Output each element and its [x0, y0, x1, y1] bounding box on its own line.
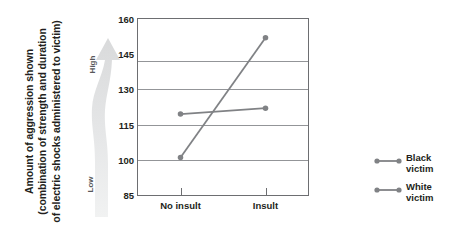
data-series-layer — [138, 19, 308, 195]
x-tick-label-no-insult: No insult — [160, 200, 201, 211]
legend-label-black-victim-line-1: Black — [406, 152, 431, 163]
y-tick-label-85: 85 — [123, 190, 134, 201]
y-axis-label-line-3: of electric shocks administered to victi… — [50, 20, 64, 222]
legend-item-white-victim[interactable]: White victim — [374, 181, 454, 203]
y-axis-label-line-2: (combination of strength and duration — [36, 20, 50, 222]
legend-label-black-victim-line-2: victim — [406, 163, 433, 174]
legend-marker-white-victim — [374, 182, 402, 194]
y-tick-label-130: 130 — [118, 84, 134, 95]
data-point — [178, 111, 184, 117]
y-axis-label: Amount of aggression shown (combination … — [0, 0, 86, 243]
chart-plot-area: 160 145 130 115 100 85 No insult Insult — [137, 18, 309, 196]
series-line-black-victim — [181, 108, 266, 114]
data-point — [178, 155, 184, 161]
scale-arrow-high-label: High — [88, 56, 97, 74]
chart-legend: Black victim White victim — [374, 152, 454, 210]
legend-label-white-victim-line-1: White — [406, 181, 432, 192]
data-point — [263, 35, 269, 41]
y-tick-label-160: 160 — [118, 14, 134, 25]
y-tick-label-115: 115 — [119, 119, 134, 130]
series-line-white-victim — [181, 38, 266, 158]
legend-item-black-victim[interactable]: Black victim — [374, 152, 454, 174]
y-axis-label-line-1: Amount of aggression shown — [23, 20, 37, 222]
y-tick-label-100: 100 — [118, 154, 134, 165]
x-tick-label-insult: Insult — [253, 200, 278, 211]
legend-marker-black-victim — [374, 153, 402, 165]
data-point — [263, 105, 269, 111]
y-tick-label-145: 145 — [118, 49, 134, 60]
cropped-page-text-fragment — [451, 148, 457, 210]
scale-arrow-icon: High Low — [86, 12, 126, 217]
scale-arrow-low-label: Low — [86, 177, 95, 193]
legend-label-white-victim-line-2: victim — [406, 192, 433, 203]
